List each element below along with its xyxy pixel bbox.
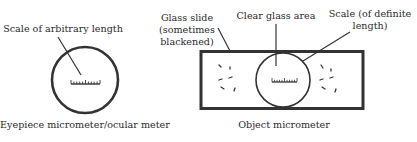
left-dash-marks	[219, 65, 235, 91]
arbitrary-scale-ruler	[71, 80, 100, 84]
clear-glass-circle	[256, 53, 310, 107]
glass-slide-label: Glass slide	[161, 12, 214, 23]
clear-glass-area-label: Clear glass area	[237, 10, 316, 21]
glass-slide-label-note-2: blackened)	[160, 36, 214, 47]
glass-slide-leader-line	[218, 28, 230, 51]
arbitrary-scale-label: Scale of arbitrary length	[3, 23, 123, 34]
definite-scale-leader-line	[303, 32, 350, 61]
eyepiece-micrometer-figure: Scale of arbitrary length Eyepiece micro…	[0, 23, 170, 130]
definite-scale-ruler	[272, 78, 297, 82]
eyepiece-caption: Eyepiece micrometer/ocular meter	[0, 119, 170, 130]
definite-scale-label-2: length)	[353, 20, 388, 31]
object-micrometer-caption: Object micrometer	[238, 119, 330, 130]
micrometer-diagram: Scale of arbitrary length Eyepiece micro…	[0, 0, 417, 142]
glass-slide-label-note: (sometimes	[159, 24, 215, 35]
object-micrometer-figure: Glass slide (sometimes blackened) Clear …	[159, 8, 412, 130]
eyepiece-circle	[52, 47, 118, 113]
right-dash-marks	[320, 65, 336, 92]
definite-scale-label: Scale (of definite	[329, 8, 412, 19]
